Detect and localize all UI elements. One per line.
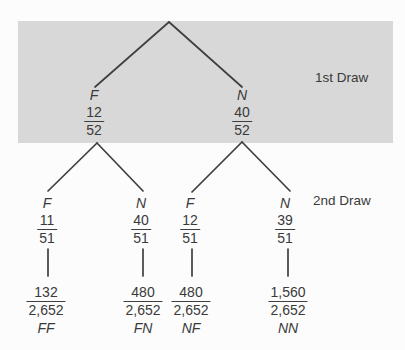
second-draw-node-ff: F 11 51 <box>37 195 57 247</box>
fraction-denominator: 51 <box>131 230 151 246</box>
branch-letter: N <box>232 87 252 103</box>
branch-line-n-n <box>242 142 290 191</box>
branch-letter: N <box>275 195 295 211</box>
second-draw-node-nf: F 12 51 <box>180 195 200 247</box>
outcome-fraction: 480 2,652 <box>123 285 162 318</box>
branch-letter: F <box>180 195 200 211</box>
first-draw-node-f: F 12 52 <box>84 87 104 139</box>
fraction-denominator: 52 <box>232 122 252 138</box>
outcome-fraction: 132 2,652 <box>26 285 65 318</box>
fraction-denominator: 51 <box>275 230 295 246</box>
outcome-label: FF <box>26 320 65 336</box>
branch-line-root-f <box>95 22 169 87</box>
fraction-numerator: 12 <box>84 105 104 122</box>
probability-fraction: 39 51 <box>275 213 295 246</box>
fraction-numerator: 12 <box>180 213 200 230</box>
fraction-denominator: 51 <box>180 230 200 246</box>
outcome-label: FN <box>123 320 162 336</box>
fraction-denominator: 2,652 <box>123 302 162 318</box>
outcome-node-nn: 1,560 2,652 NN <box>268 283 307 336</box>
fraction-numerator: 1,560 <box>268 285 307 302</box>
probability-fraction: 40 52 <box>232 105 252 138</box>
outcome-fraction: 1,560 2,652 <box>268 285 307 318</box>
branch-letter: F <box>37 195 57 211</box>
branch-line-f-n <box>97 143 143 191</box>
second-draw-node-nn: N 39 51 <box>275 195 295 247</box>
outcome-label: NF <box>171 320 210 336</box>
first-draw-node-n: N 40 52 <box>232 87 252 139</box>
fraction-numerator: 132 <box>26 285 65 302</box>
fraction-numerator: 40 <box>232 105 252 122</box>
fraction-denominator: 52 <box>84 122 104 138</box>
outcome-fraction: 480 2,652 <box>171 285 210 318</box>
outcome-node-nf: 480 2,652 NF <box>171 283 210 336</box>
first-draw-stage-label: 1st Draw <box>315 70 368 86</box>
branch-letter: F <box>84 87 104 103</box>
probability-tree-diagram: 1st Draw 2nd Draw F 12 52 N 40 52 F 11 5… <box>0 0 405 350</box>
fraction-denominator: 2,652 <box>171 302 210 318</box>
probability-fraction: 11 51 <box>37 213 57 246</box>
second-draw-stage-label: 2nd Draw <box>313 193 371 209</box>
fraction-denominator: 51 <box>37 230 57 246</box>
outcome-node-fn: 480 2,652 FN <box>123 283 162 336</box>
fraction-numerator: 11 <box>37 213 57 230</box>
branch-line-f-f <box>48 143 97 191</box>
probability-fraction: 12 51 <box>180 213 200 246</box>
fraction-numerator: 39 <box>275 213 295 230</box>
probability-fraction: 40 51 <box>131 213 151 246</box>
outcome-node-ff: 132 2,652 FF <box>26 283 65 336</box>
second-draw-node-fn: N 40 51 <box>131 195 151 247</box>
fraction-numerator: 480 <box>123 285 162 302</box>
probability-fraction: 12 52 <box>84 105 104 138</box>
fraction-numerator: 40 <box>131 213 151 230</box>
branch-line-root-n <box>169 22 242 87</box>
outcome-label: NN <box>268 320 307 336</box>
fraction-numerator: 480 <box>171 285 210 302</box>
branch-line-n-f <box>192 142 242 192</box>
branch-letter: N <box>131 195 151 211</box>
fraction-denominator: 2,652 <box>268 302 307 318</box>
fraction-denominator: 2,652 <box>26 302 65 318</box>
